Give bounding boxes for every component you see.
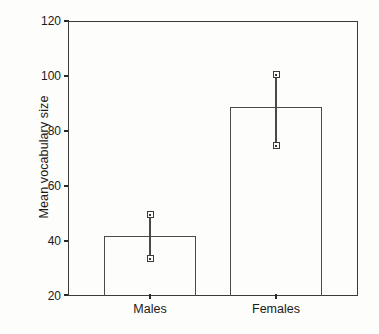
error-marker-upper-females: [273, 71, 280, 78]
error-marker-lower-females: [273, 142, 280, 149]
y-tick-label-60: 60: [21, 180, 61, 192]
y-tick-label-100: 100: [21, 70, 61, 82]
error-marker-lower-males: [147, 255, 154, 262]
x-tick-mark-males: [149, 294, 151, 299]
x-tick-label-females: Females: [221, 303, 331, 317]
chart-figure: Mean vocabulary size 120 100 80 60 40 20…: [0, 0, 379, 334]
error-bar-line-males: [149, 217, 150, 258]
y-tick-label-40: 40: [21, 235, 61, 247]
y-tick-label-80: 80: [21, 125, 61, 137]
y-tick-label-20: 20: [21, 290, 61, 302]
error-bar-line-females: [275, 77, 276, 145]
y-tick-label-120: 120: [21, 15, 61, 27]
x-tick-mark-females: [275, 294, 277, 299]
x-tick-label-males: Males: [95, 303, 205, 317]
error-marker-upper-males: [147, 211, 154, 218]
